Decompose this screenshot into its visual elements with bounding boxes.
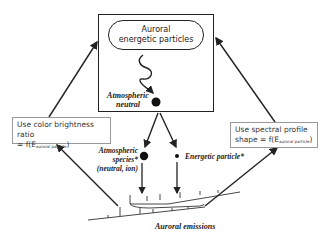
right-note-sub: auroral particle [279,139,310,144]
right-note-line-2: shape = f(Eauroral particle) [235,135,313,147]
neutral-label-line-1: Atmospheric [106,91,150,100]
left-note-line-1: Use color brightness ratio [17,120,106,140]
pill-line-1: Auroral [142,25,171,35]
energetic-particle-label: Energetic particle* [185,152,244,161]
species-line-2: species* [84,155,138,164]
right-note-prefix: shape = f(E [235,135,279,144]
atmospheric-species-label: Atmospheric species* (neutral, ion) [84,146,138,173]
left-note-sub: auroral particle [36,144,67,149]
species-line-1: Atmospheric [84,146,138,155]
color-brightness-note: Use color brightness ratio = f(Eauroral … [12,117,111,144]
left-note-prefix: = f(E [17,140,36,149]
species-line-3: (neutral, ion) [84,164,138,173]
atmospheric-neutral-label: Atmospheric neutral [106,91,150,109]
emission-spectrum [88,190,240,220]
pill-line-2: energetic particles [119,35,194,45]
neutral-label-line-2: neutral [106,100,150,109]
species-dot [140,152,148,160]
right-note-suffix: ) [310,135,313,144]
spectral-profile-note: Use spectral profile shape = f(Eauroral … [230,122,318,148]
right-note-line-1: Use spectral profile [235,125,313,135]
left-note-suffix: ) [67,140,70,149]
particle-dot [175,154,179,158]
auroral-emissions-label: Auroral emissions [155,222,215,231]
auroral-particles-pill: Auroral energetic particles [108,20,204,50]
